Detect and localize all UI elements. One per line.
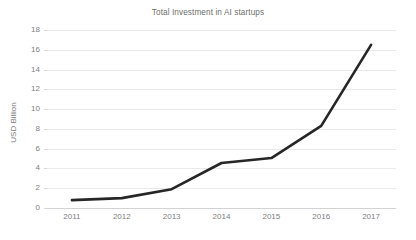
data-series-line [72, 45, 371, 200]
chart-container: Total Investment in AI startups USD Bill… [0, 0, 416, 240]
plot-area [0, 0, 416, 240]
